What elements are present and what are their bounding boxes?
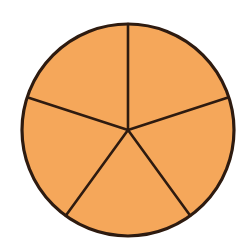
fraction-circle-graphic (0, 0, 252, 249)
fraction-circle-figure (0, 0, 252, 249)
